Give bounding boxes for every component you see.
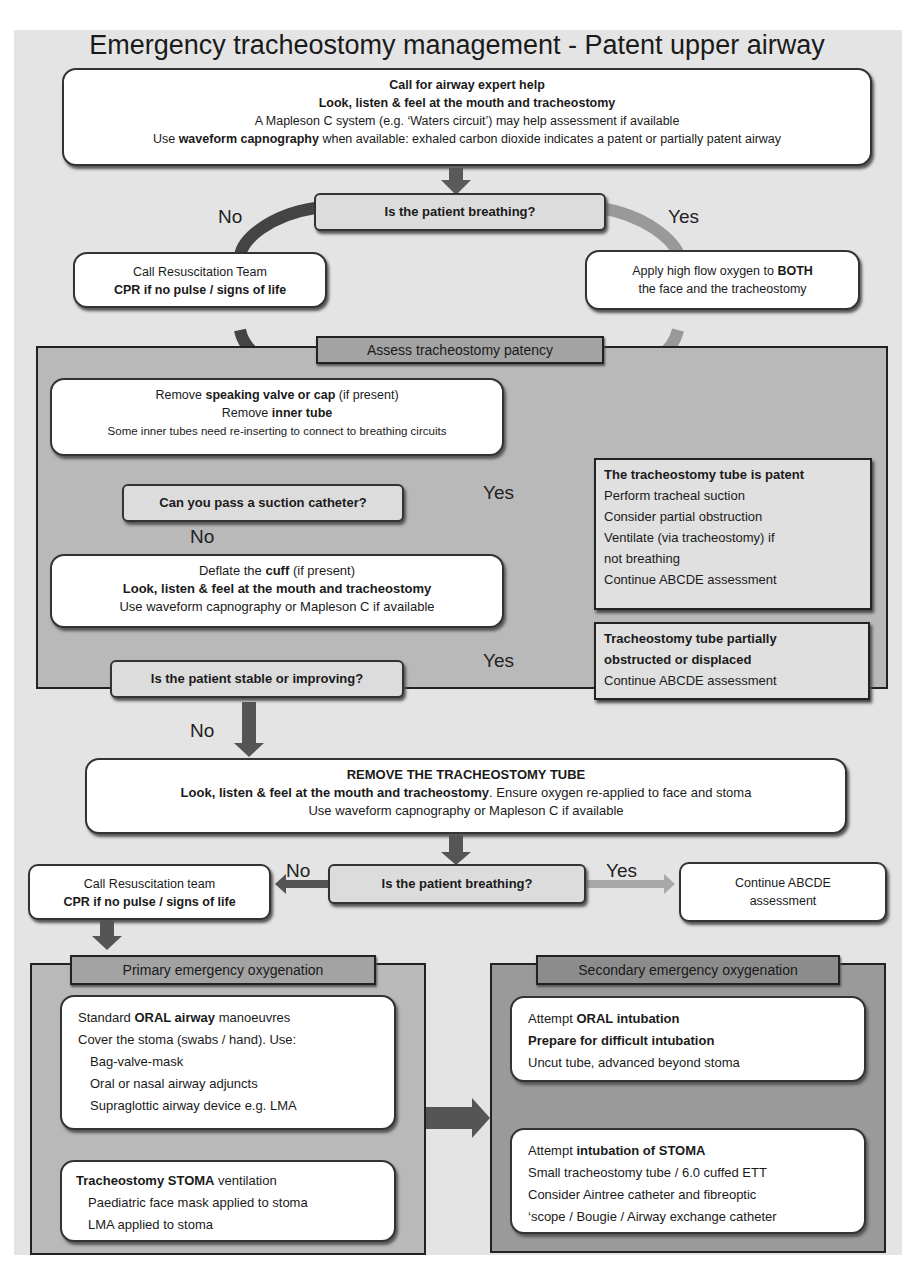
partially-obstructed-box: Tracheostomy tube partially obstructed o… [594, 622, 870, 700]
yes-label-1: Yes [668, 206, 699, 228]
high-flow-oxygen-box: Apply high flow oxygen to BOTH the face … [585, 250, 860, 310]
remove-speaking-valve-box: Remove speaking valve or cap (if present… [50, 378, 504, 456]
capnography-text: Use waveform capnography when available:… [64, 130, 870, 148]
yes-label-stable: Yes [483, 650, 514, 672]
call-resus-team-box: Call Resuscitation Team CPR if no pulse … [73, 252, 327, 308]
call-expert-help-text: Call for airway expert help [64, 76, 870, 94]
secondary-oxygenation-header: Secondary emergency oxygenation [536, 955, 840, 985]
no-label-1: No [218, 206, 242, 228]
call-resus-team-box-2: Call Resuscitation team CPR if no pulse … [28, 864, 271, 920]
oral-intubation-box: Attempt ORAL intubation Prepare for diff… [510, 996, 866, 1082]
oral-airway-box: Standard ORAL airway manoeuvres Cover th… [60, 995, 396, 1130]
question-stable-improving: Is the patient stable or improving? [110, 660, 404, 698]
continue-abcde-box: Continue ABCDE assessment [679, 862, 887, 922]
assess-patency-header: Assess tracheostomy patency [316, 336, 604, 364]
remove-tube-box: REMOVE THE TRACHEOSTOMY TUBE Look, liste… [85, 758, 847, 834]
look-listen-feel-text: Look, listen & feel at the mouth and tra… [64, 94, 870, 112]
yes-label-2: Yes [606, 860, 637, 882]
yes-label-suction: Yes [483, 482, 514, 504]
deflate-cuff-box: Deflate the cuff (if present) Look, list… [50, 554, 504, 628]
question-patient-breathing-1: Is the patient breathing? [314, 193, 606, 231]
no-label-stable: No [190, 720, 214, 742]
question-text: Is the patient breathing? [385, 204, 536, 219]
tube-patent-box: The tracheostomy tube is patent Perform … [594, 458, 872, 610]
question-suction-catheter: Can you pass a suction catheter? [122, 484, 404, 522]
no-label-2: No [286, 860, 310, 882]
question-patient-breathing-2: Is the patient breathing? [328, 864, 586, 904]
primary-oxygenation-header: Primary emergency oxygenation [70, 955, 376, 985]
no-label-suction: No [190, 526, 214, 548]
stoma-ventilation-box: Tracheostomy STOMA ventilation Paediatri… [60, 1160, 396, 1242]
page-title: Emergency tracheostomy management - Pate… [0, 30, 914, 61]
mapleson-text: A Mapleson C system (e.g. ‘Waters circui… [64, 112, 870, 130]
stoma-intubation-box: Attempt intubation of STOMA Small trache… [510, 1128, 866, 1234]
initial-assessment-box: Call for airway expert help Look, listen… [62, 68, 872, 166]
